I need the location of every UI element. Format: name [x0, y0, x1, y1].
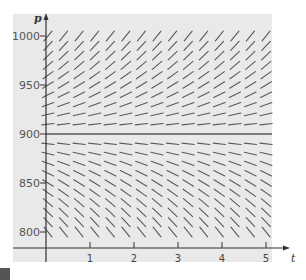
x-tick-label: 4 [219, 253, 225, 264]
x-tick-label: 5 [263, 253, 269, 264]
y-axis-label: p [34, 12, 42, 25]
slope-field-figure: p t 12345 8008509009501000 [0, 0, 306, 280]
x-axis-arrow-icon [283, 246, 290, 251]
y-tick-label: 850 [19, 177, 40, 190]
y-tick-label: 950 [19, 79, 40, 92]
x-tick-label: 1 [87, 253, 93, 264]
x-axis-label: t [291, 252, 296, 265]
y-tick-label: 800 [19, 226, 40, 239]
x-tick-label: 3 [175, 253, 181, 264]
y-tick-label: 1000 [12, 30, 40, 43]
y-tick-label: 900 [19, 128, 40, 141]
corner-marker [0, 268, 10, 280]
x-tick-label: 2 [131, 253, 137, 264]
